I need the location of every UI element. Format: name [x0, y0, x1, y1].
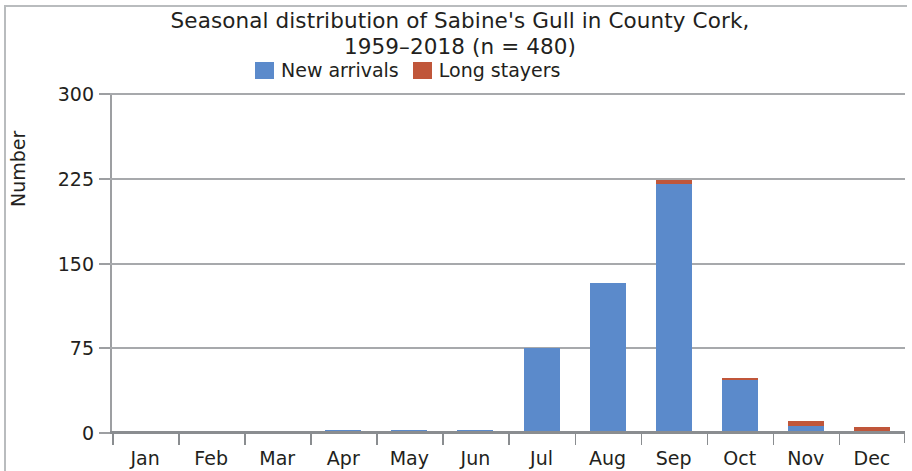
x-tick-mark-jun — [442, 433, 444, 445]
bar-series-group — [112, 94, 905, 433]
x-tick-mark-nov — [773, 433, 775, 445]
legend-item-long-stayers: Long stayers — [413, 60, 561, 80]
x-tick-label-may: May — [376, 447, 442, 469]
y-tick-label-300: 300 — [58, 83, 94, 105]
x-tick-apr: Apr — [310, 433, 376, 469]
legend-label-new-arrivals: New arrivals — [281, 60, 399, 80]
y-tick-label-150: 150 — [58, 253, 94, 275]
x-tick-label-nov: Nov — [773, 447, 839, 469]
x-axis: JanFebMarAprMayJunJulAugSepOctNovDec — [110, 431, 905, 471]
x-tick-label-apr: Apr — [310, 447, 376, 469]
bar-jul[interactable] — [524, 348, 560, 433]
bar-slot-may — [376, 94, 442, 433]
x-tick-mark-oct — [707, 433, 709, 445]
x-tick-mark-aug — [575, 433, 577, 445]
bar-sep[interactable] — [656, 180, 692, 433]
bar-segment-aug-new-arrivals — [590, 283, 626, 433]
chart-page: Seasonal distribution of Sabine's Gull i… — [0, 0, 912, 471]
x-tick-label-feb: Feb — [178, 447, 244, 469]
x-tick-sep: Sep — [641, 433, 707, 469]
x-tick-mark-jan — [112, 433, 114, 445]
bar-slot-nov — [773, 94, 839, 433]
x-tick-label-dec: Dec — [839, 447, 905, 469]
x-tick-label-jun: Jun — [442, 447, 508, 469]
x-tick-group: JanFebMarAprMayJunJulAugSepOctNovDec — [112, 433, 905, 469]
x-tick-mark-apr — [310, 433, 312, 445]
x-tick-mark-mar — [244, 433, 246, 445]
bar-aug[interactable] — [590, 283, 626, 433]
x-tick-label-jul: Jul — [508, 447, 574, 469]
bar-slot-mar — [244, 94, 310, 433]
x-tick-label-sep: Sep — [641, 447, 707, 469]
x-tick-label-jan: Jan — [112, 447, 178, 469]
bar-slot-jul — [508, 94, 574, 433]
bar-slot-jun — [442, 94, 508, 433]
x-tick-mark-sep — [641, 433, 643, 445]
x-tick-label-mar: Mar — [244, 447, 310, 469]
x-tick-mark-may — [376, 433, 378, 445]
bar-slot-apr — [310, 94, 376, 433]
chart-title: Seasonal distribution of Sabine's Gull i… — [60, 8, 860, 60]
bar-slot-dec — [839, 94, 905, 433]
y-axis-title: Number — [7, 131, 29, 207]
x-tick-oct: Oct — [707, 433, 773, 469]
y-tick-label-225: 225 — [58, 168, 94, 190]
legend-item-new-arrivals: New arrivals — [255, 60, 399, 80]
x-tick-jul: Jul — [508, 433, 574, 469]
x-tick-aug: Aug — [575, 433, 641, 469]
x-tick-label-oct: Oct — [707, 447, 773, 469]
y-tick-mark-300 — [99, 93, 110, 95]
x-tick-mar: Mar — [244, 433, 310, 469]
x-tick-jun: Jun — [442, 433, 508, 469]
y-tick-mark-75 — [99, 347, 110, 349]
plot-area: 075150225300 — [110, 94, 905, 433]
bar-segment-oct-new-arrivals — [722, 380, 758, 433]
x-tick-mark-feb — [178, 433, 180, 445]
bar-segment-sep-new-arrivals — [656, 184, 692, 433]
y-tick-label-75: 75 — [70, 337, 94, 359]
x-tick-mark-end — [904, 431, 906, 443]
x-tick-label-aug: Aug — [575, 447, 641, 469]
bar-segment-jul-new-arrivals — [524, 348, 560, 433]
x-tick-jan: Jan — [112, 433, 178, 469]
bar-slot-feb — [178, 94, 244, 433]
x-tick-nov: Nov — [773, 433, 839, 469]
legend-swatch-new-arrivals — [255, 62, 274, 79]
chart-legend: New arrivals Long stayers — [255, 60, 560, 80]
y-tick-label-0: 0 — [82, 422, 94, 444]
bar-slot-aug — [575, 94, 641, 433]
legend-swatch-long-stayers — [413, 62, 432, 79]
bar-oct[interactable] — [722, 378, 758, 433]
y-tick-mark-225 — [99, 178, 110, 180]
bar-slot-sep — [641, 94, 707, 433]
x-tick-mark-jul — [508, 433, 510, 445]
x-tick-feb: Feb — [178, 433, 244, 469]
y-tick-mark-0 — [99, 432, 110, 434]
bar-slot-oct — [707, 94, 773, 433]
y-tick-mark-150 — [99, 263, 110, 265]
x-tick-dec: Dec — [839, 433, 905, 469]
x-tick-mark-dec — [839, 433, 841, 445]
legend-label-long-stayers: Long stayers — [439, 60, 561, 80]
x-tick-may: May — [376, 433, 442, 469]
bar-slot-jan — [112, 94, 178, 433]
